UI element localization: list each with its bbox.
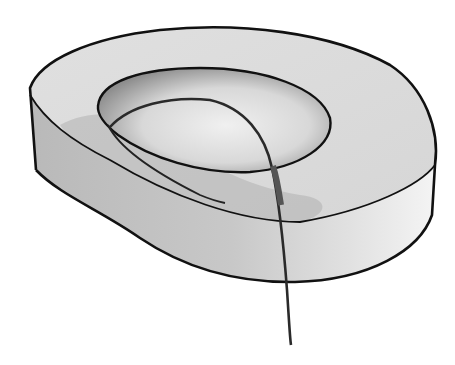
disc-svg	[0, 0, 455, 365]
disc-illustration	[0, 0, 455, 365]
